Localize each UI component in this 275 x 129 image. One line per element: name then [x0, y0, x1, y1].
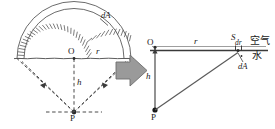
left-label-r: r	[96, 47, 100, 56]
right-label-dA: dA	[238, 62, 247, 71]
right-point-S	[237, 49, 240, 52]
left-label-O: O	[68, 47, 75, 56]
right-diagram-group	[150, 46, 268, 113]
transform-arrow-group	[116, 55, 147, 86]
right-label-r: r	[194, 37, 198, 46]
left-ray-arrowhead-right	[102, 83, 108, 89]
transform-arrow-shape	[116, 55, 147, 86]
right-label-O: O	[147, 38, 154, 47]
left-ray-left-inner	[22, 62, 74, 113]
left-label-P: P	[70, 114, 75, 123]
left-diagram-group	[14, 2, 134, 115]
right-ray-P-to-S	[155, 53, 238, 111]
right-label-h: h	[146, 72, 151, 81]
left-ray-arrowhead-left	[40, 83, 46, 89]
left-label-h: h	[77, 78, 82, 87]
right-label-medium-water: 水	[252, 51, 262, 61]
physics-figure: O r h P dA O r h P S dr dA 空气 水	[0, 0, 275, 129]
right-label-P: P	[151, 113, 156, 122]
right-label-dr: dr	[235, 39, 242, 47]
right-dA-leader-dot	[241, 55, 243, 57]
dome-band-divisions	[17, 24, 91, 59]
figure-vector-canvas	[0, 0, 275, 129]
left-label-dA: dA	[101, 11, 110, 20]
left-point-O	[73, 57, 76, 60]
right-label-medium-air: 空气	[250, 36, 270, 46]
